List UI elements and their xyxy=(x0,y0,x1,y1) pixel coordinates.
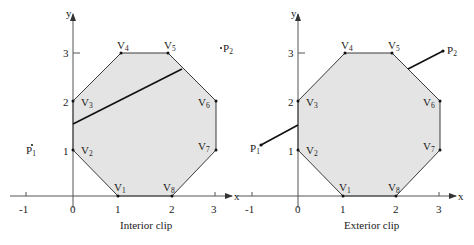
y-axis-label: y xyxy=(291,7,297,19)
x-tick: 1 xyxy=(115,203,121,215)
x-axis-label: x xyxy=(458,190,464,202)
svg-text:V4: V4 xyxy=(117,39,129,53)
x-tick: 1 xyxy=(340,203,346,215)
caption-interior-clip: Interior clip xyxy=(120,219,173,231)
clipping-diagram: y x -1 0 1 2 3 1 2 3 V1 V2 V3 V4 V5 V6 V… xyxy=(0,0,474,245)
point-p1-label: P1 xyxy=(250,142,260,156)
x-tick: 3 xyxy=(436,203,442,215)
x-tick: 0 xyxy=(295,203,301,215)
x-tick: -1 xyxy=(19,203,28,215)
x-tick: 2 xyxy=(393,203,399,215)
point-p2-label: P2 xyxy=(223,42,233,56)
x-tick: 3 xyxy=(211,203,217,215)
svg-text:V5: V5 xyxy=(388,39,400,53)
svg-text:V5: V5 xyxy=(164,39,176,53)
y-tick: 2 xyxy=(63,96,69,108)
y-tick: 1 xyxy=(288,145,294,157)
svg-text:V4: V4 xyxy=(341,39,353,53)
point-p2-label: P2 xyxy=(447,44,457,58)
point-p1-label: P1 xyxy=(26,144,36,158)
x-tick: 0 xyxy=(70,203,76,215)
interior-clip-panel: y x -1 0 1 2 3 1 2 3 V1 V2 V3 V4 V5 V6 V… xyxy=(10,7,240,231)
y-tick: 3 xyxy=(63,47,69,59)
x-tick: 2 xyxy=(169,203,175,215)
clip-polygon xyxy=(298,53,440,196)
x-tick: -1 xyxy=(245,203,254,215)
y-axis-label: y xyxy=(66,7,72,19)
clipped-line-segment-right xyxy=(408,51,443,69)
exterior-clip-panel: y x -1 0 1 2 3 1 2 3 V1 V2 V3 V4 V5 V6 V… xyxy=(237,7,464,231)
clipped-line-segment-left xyxy=(261,125,298,145)
y-tick: 2 xyxy=(288,96,294,108)
clip-polygon xyxy=(73,53,216,196)
y-tick: 1 xyxy=(63,145,69,157)
y-tick: 3 xyxy=(288,47,294,59)
caption-exterior-clip: Exterior clip xyxy=(344,219,400,231)
